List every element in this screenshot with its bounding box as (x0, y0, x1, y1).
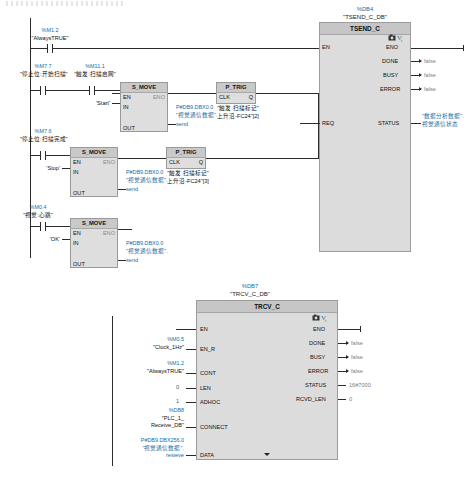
s-move2-in-value: 'Stop' (32, 165, 60, 173)
contact-stop-scan-done[interactable] (36, 151, 50, 160)
tsend-eno-wire (411, 48, 463, 49)
tsend-c-block[interactable]: TSEND_C (319, 22, 411, 252)
trcv-block-icons: Vt (312, 314, 328, 322)
pin-out[interactable]: OUT (73, 190, 85, 196)
trcv-status-value: 16#7000 (349, 382, 371, 388)
pin-out[interactable]: OUT (123, 125, 135, 131)
trcv-pin-en[interactable]: EN (200, 326, 208, 332)
tsend-pin-status[interactable]: STATUS (378, 120, 399, 126)
pin-q[interactable]: Q (199, 159, 203, 165)
contact-vision-heartbeat[interactable] (36, 222, 50, 231)
lad-editor-canvas[interactable]: %M1.2 "AlwaysTRUE" %M7.7 "停止位:开始扫描" %M11… (0, 0, 474, 490)
s-move3-out-lead (118, 260, 126, 261)
p-trig-block-2[interactable]: P_TRIG CLK Q (166, 147, 206, 169)
pin-en[interactable]: EN (73, 230, 81, 236)
s-move1-eno-lead (168, 93, 216, 94)
tsend-pin-busy[interactable]: BUSY (383, 72, 398, 78)
s-move3-in-value: 'OK' (34, 236, 60, 244)
camera-icon[interactable] (388, 34, 395, 42)
trcv-pin-cont[interactable]: CONT (200, 370, 216, 376)
trcv-cont-address: %M1.2 (112, 360, 184, 368)
p-trig-1-line1: "触发:扫描标记" (217, 105, 259, 111)
tsend-pin-req[interactable]: REQ (322, 120, 334, 126)
contact-name: "触发:扫描启网" (74, 71, 116, 77)
s-move2-out-lead (118, 189, 126, 190)
trcv-cont-name: "AlwaysTRUE" (147, 368, 184, 374)
camera-icon[interactable] (312, 314, 319, 322)
pin-eno[interactable]: ENO (103, 230, 115, 236)
tsend-eno-cap (463, 45, 464, 51)
p-trig-1-label: "触发:扫描标记" 上升沿-FC24"[2] (212, 105, 264, 120)
contact-label-always-true: %M1.2 "AlwaysTRUE" (22, 27, 78, 42)
pin-clk[interactable]: CLK (219, 94, 230, 100)
contact-trigger-scan-switch[interactable] (85, 86, 99, 95)
trcv-pin-data[interactable]: DATA (200, 452, 214, 458)
rung3-wire-a (30, 155, 36, 156)
trcv-pin-adhoc[interactable]: ADHOC (200, 399, 220, 405)
pin-en[interactable]: EN (123, 94, 131, 100)
trcv-pin-rcvd-len[interactable]: RCVD_LEN (296, 396, 326, 402)
tsend-done-value: false (424, 58, 436, 64)
trcv-pin-connect[interactable]: CONNECT (200, 424, 228, 430)
p-trig-2-line2: 上升沿-FC24"[3] (167, 178, 209, 184)
trcv-pin-status[interactable]: STATUS (305, 382, 326, 388)
trcv-pin-eno[interactable]: ENO (313, 326, 325, 332)
toolbar-strip (6, 1, 126, 6)
tsend-pin-error[interactable]: ERROR (380, 86, 400, 92)
pin-in[interactable]: IN (123, 104, 129, 110)
s-move-block-2[interactable]: S_MOVE EN ENO IN OUT (70, 147, 118, 197)
tsend-busy-value: false (424, 72, 436, 78)
trcv-c-block[interactable]: TRCV_C (196, 300, 338, 460)
trcv-pin-en-r[interactable]: EN_R (200, 346, 215, 352)
p-trig-block-1[interactable]: P_TRIG CLK Q (216, 82, 256, 104)
trcv-pin-done[interactable]: DONE (309, 340, 325, 346)
pin-in[interactable]: IN (73, 169, 79, 175)
pin-eno[interactable]: ENO (103, 159, 115, 165)
tsend-pin-done[interactable]: DONE (382, 58, 398, 64)
trcv-cont-lead (186, 373, 196, 374)
s-move2-in-lead (62, 168, 70, 169)
rung3-wire-b (50, 155, 70, 156)
p-trig-2-label: "触发:扫描标记" 上升沿-FC24"[3] (162, 170, 214, 185)
chevron-down-icon[interactable] (264, 453, 270, 456)
trcv-connect-name1: "PLC_1_ (162, 415, 184, 421)
pin-out[interactable]: OUT (73, 261, 85, 267)
contact-always-true[interactable] (43, 44, 57, 53)
contact-label-stop-scan-done: %M7.6 "停止位:扫描完成" (20, 128, 66, 143)
trcv-pin-len[interactable]: LEN (200, 385, 211, 391)
s-move1-out-member: send (176, 121, 206, 129)
variable-icon[interactable]: Vt (397, 34, 404, 42)
svg-text:t: t (325, 318, 327, 322)
rung1-wire-right (57, 48, 319, 49)
pin-en[interactable]: EN (73, 159, 81, 165)
trcv-data-lead (186, 455, 196, 456)
trcv-rcvdlen-lead (338, 399, 346, 400)
trcv-adhoc-value: 1 (176, 398, 179, 404)
contact-address: %M0.4 (18, 204, 58, 212)
trcv-c-header: TRCV_C (197, 301, 337, 313)
trcv-pin-busy[interactable]: BUSY (310, 354, 325, 360)
s-move2-eno-lead (118, 158, 166, 159)
pin-in[interactable]: IN (73, 240, 79, 246)
variable-icon[interactable]: Vt (321, 314, 328, 322)
s-move-block-1[interactable]: S_MOVE EN ENO IN OUT (120, 82, 168, 132)
p-trig-2-line1: "触发:扫描标记" (167, 170, 209, 176)
tsend-status-tag: "数据分析数据". 视觉通信状态 (422, 113, 474, 128)
s-move-block-3[interactable]: S_MOVE EN ENO IN OUT (70, 218, 118, 268)
pin-q[interactable]: Q (249, 94, 253, 100)
pin-eno[interactable]: ENO (153, 94, 165, 100)
s-move3-eno-lead (118, 229, 132, 230)
trcv-len-value: 0 (176, 384, 179, 390)
tsend-pin-en[interactable]: EN (322, 44, 330, 50)
contact-name: "视觉:心跳" (23, 212, 53, 218)
svg-text:t: t (401, 38, 403, 42)
trcv-block-title: %DB7 "TRCV_C_DB" (190, 283, 310, 298)
trcv-eno-wire (338, 329, 360, 330)
trcv-pin-error[interactable]: ERROR (308, 368, 328, 374)
rung4-wire-b (50, 226, 70, 227)
contact-address: %M7.7 (20, 63, 66, 71)
trcv-cont-tag: %M1.2 "AlwaysTRUE" (112, 360, 184, 375)
tsend-pin-eno[interactable]: ENO (386, 44, 398, 50)
pin-clk[interactable]: CLK (169, 159, 180, 165)
contact-stop-start-scan[interactable] (36, 86, 50, 95)
